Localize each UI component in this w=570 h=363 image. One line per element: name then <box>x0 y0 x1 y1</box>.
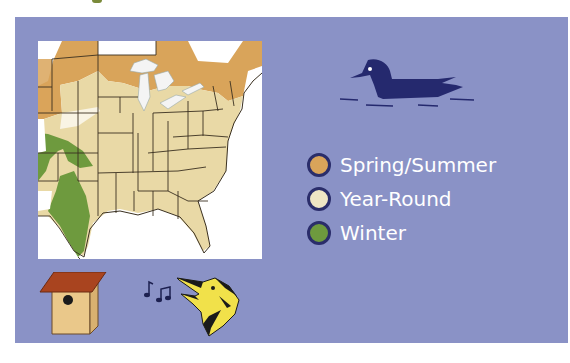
music-notes-icon <box>143 280 175 304</box>
range-map <box>38 41 262 259</box>
spring-summer-swatch-icon <box>307 153 331 177</box>
legend-label: Spring/Summer <box>340 153 496 177</box>
legend: Spring/Summer Year-Round Winter <box>307 148 496 250</box>
decorative-mark <box>92 0 102 3</box>
winter-swatch-icon <box>307 221 331 245</box>
birdhouse-icon <box>38 272 108 336</box>
year-round-swatch-icon <box>307 187 331 211</box>
wood-duck-icon <box>338 57 478 115</box>
legend-item-year-round: Year-Round <box>307 182 496 216</box>
legend-item-winter: Winter <box>307 216 496 250</box>
legend-label: Year-Round <box>340 187 452 211</box>
singing-warbler-icon <box>175 274 245 338</box>
legend-label: Winter <box>340 221 406 245</box>
range-map-graphic <box>38 41 262 259</box>
legend-item-spring-summer: Spring/Summer <box>307 148 496 182</box>
